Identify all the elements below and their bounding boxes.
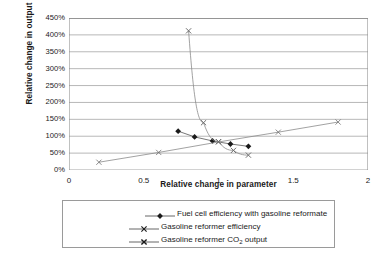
y-tick-label: 100% [31, 132, 65, 140]
plot-area [69, 18, 368, 170]
data-point-diamond [246, 143, 252, 149]
legend-item-label: Fuel cell efficiency with gasoline refor… [177, 209, 327, 219]
y-tick-label: 350% [31, 48, 65, 56]
y-tick-label: 450% [31, 14, 65, 22]
y-tick-label: 50% [31, 149, 65, 157]
x-axis-title: Relative change in parameter [69, 180, 368, 189]
legend-item-2[interactable]: Gasoline reformer CO2 output [63, 233, 392, 247]
y-tick-label: 0% [31, 166, 65, 174]
legend-item-label: Gasoline reformer CO2 output [161, 235, 267, 245]
legend-marker-icon [127, 221, 161, 233]
legend-item-0[interactable]: Fuel cell efficiency with gasoline refor… [63, 207, 392, 221]
data-point-diamond [228, 141, 234, 147]
y-axis-tick-labels: 0%50%100%150%200%250%300%350%400%450% [29, 0, 65, 258]
series-line [189, 31, 249, 155]
y-tick-label: 200% [31, 98, 65, 106]
data-point-diamond [192, 134, 198, 140]
legend-item-label: Gasoline reformer efficiency [161, 222, 260, 232]
legend-marker-icon [127, 234, 161, 246]
data-series-layer [69, 18, 368, 170]
y-tick-label: 250% [31, 82, 65, 90]
data-point-diamond [157, 213, 163, 219]
chart-legend: Fuel cell efficiency with gasoline refor… [62, 200, 335, 248]
data-point-diamond [175, 128, 181, 134]
legend-marker-icon [143, 208, 177, 220]
y-tick-label: 400% [31, 31, 65, 39]
y-tick-label: 150% [31, 115, 65, 123]
legend-item-1[interactable]: Gasoline reformer efficiency [63, 220, 392, 234]
y-tick-label: 300% [31, 65, 65, 73]
chart-container: Relative change in output 0%50%100%150%2… [0, 0, 392, 258]
